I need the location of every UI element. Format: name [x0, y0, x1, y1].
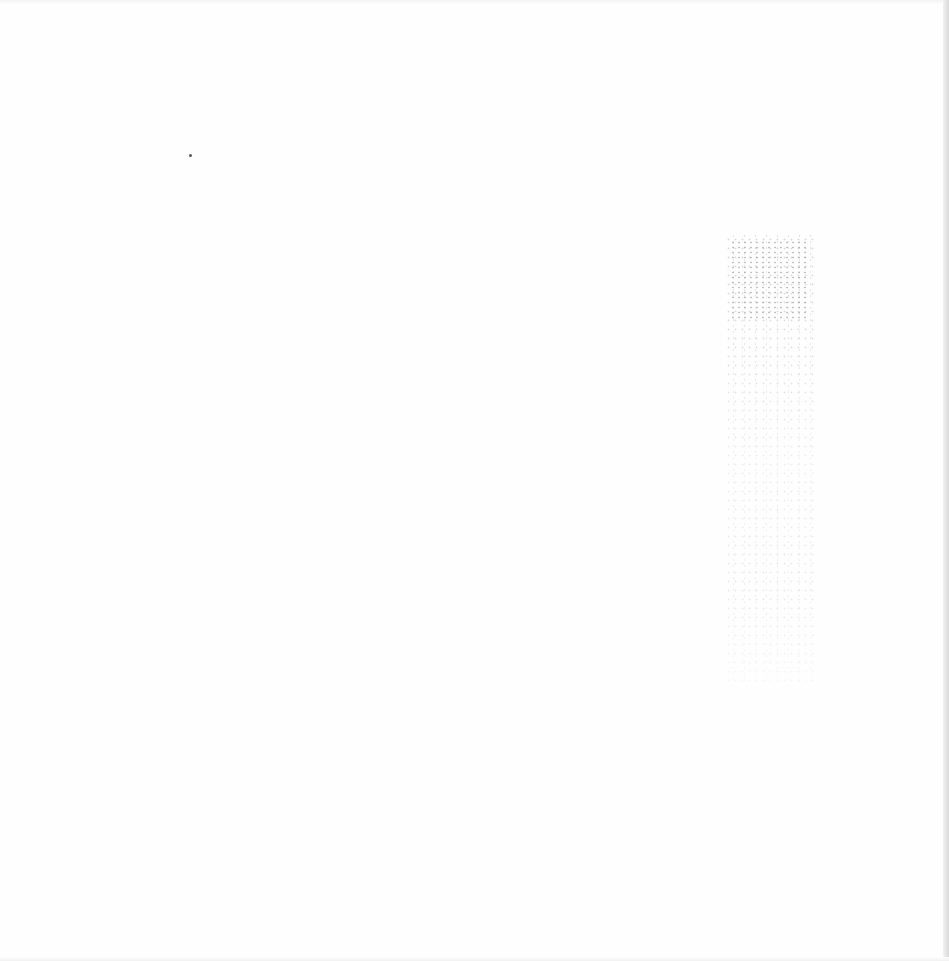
bleed-through-noise-dense: [730, 240, 810, 320]
page-bottom-edge: [0, 957, 949, 961]
scanned-page: [0, 0, 949, 961]
page-top-edge: [0, 0, 949, 4]
dust-speck: [189, 154, 192, 157]
page-right-edge-shadow: [943, 0, 949, 961]
